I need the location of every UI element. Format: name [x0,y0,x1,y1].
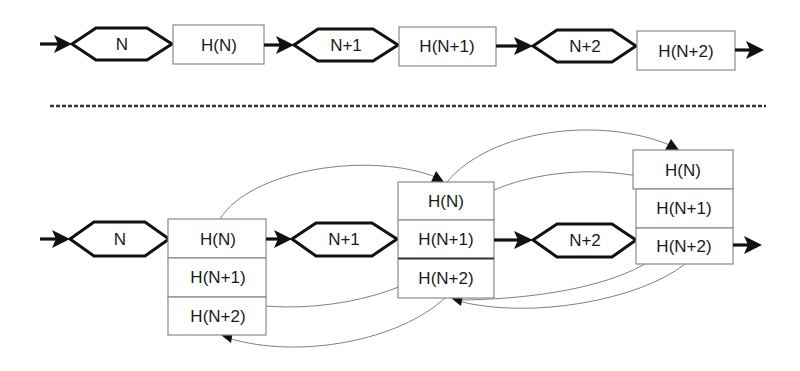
stack2-cell-hn2: H(N+2) [418,269,473,288]
bottom-node-n: N [70,222,169,256]
top-node-n1: N+1 [294,29,398,61]
top-entry-arrow [40,35,72,53]
top-node-n2-label: N+2 [569,37,601,56]
top-hash-n2-label: H(N+2) [658,42,713,61]
bottom-stack-1: H(N) H(N+1) H(N+2) [168,219,266,335]
top-node-n-label: N [116,35,128,54]
bottom-entry-arrow [40,230,70,248]
bottom-node-n-label: N [114,230,126,249]
bottom-arrow-2 [494,231,533,249]
top-row: N H(N) N+1 H(N+1) N+2 [40,25,764,70]
stack3-cell-hn: H(N) [665,161,701,180]
top-hash-n: H(N) [173,25,264,64]
top-hash-n1-label: H(N+1) [419,37,474,56]
bottom-row: N H(N) H(N+1) H(N+2) N+1 H(N) [40,130,762,347]
bottom-node-n2-label: N+2 [569,231,601,250]
bottom-stack-3: H(N) H(N+1) H(N+2) [633,150,733,264]
top-node-n: N [72,28,172,60]
bottom-stack-2: H(N) H(N+1) H(N+2) [398,182,494,298]
hash-chain-diagram: N H(N) N+1 H(N+1) N+2 [0,0,800,371]
stack1-cell-hn: H(N) [200,230,236,249]
stack1-cell-hn2: H(N+2) [190,307,245,326]
top-hash-n2: H(N+2) [637,31,735,70]
top-node-n2: N+2 [533,30,636,62]
bottom-exit-arrow [733,236,762,254]
top-arrow-1 [264,36,294,54]
top-hash-n1: H(N+1) [399,27,496,66]
bottom-node-n1-label: N+1 [328,230,360,249]
top-exit-arrow [735,41,764,59]
top-hash-n-label: H(N) [201,36,237,55]
bottom-arrow-1 [266,230,292,248]
top-arrow-2 [496,37,533,55]
stack2-cell-hn1: H(N+1) [418,230,473,249]
bottom-node-n1: N+1 [292,223,397,256]
top-node-n1-label: N+1 [330,36,362,55]
stack1-cell-hn1: H(N+1) [190,268,245,287]
stack3-cell-hn2: H(N+2) [656,237,711,256]
stack2-cell-hn: H(N) [428,192,464,211]
bottom-node-n2: N+2 [533,224,636,257]
stack3-cell-hn1: H(N+1) [656,199,711,218]
